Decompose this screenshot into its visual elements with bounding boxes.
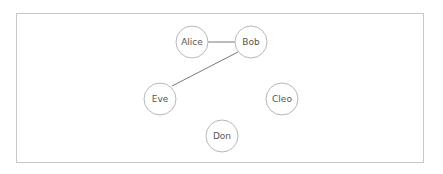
edge-bob-eve[interactable] — [172, 52, 238, 86]
node-alice-label: Alice — [181, 37, 203, 47]
node-eve[interactable]: Eve — [144, 83, 176, 115]
node-bob-label: Bob — [242, 37, 260, 47]
graph: Alice Bob Eve Cleo Don — [0, 0, 443, 174]
node-cleo-label: Cleo — [272, 94, 292, 104]
node-cleo[interactable]: Cleo — [266, 83, 298, 115]
node-bob[interactable]: Bob — [235, 26, 267, 58]
node-don[interactable]: Don — [206, 120, 238, 152]
node-alice[interactable]: Alice — [176, 26, 208, 58]
node-eve-label: Eve — [152, 94, 169, 104]
node-don-label: Don — [213, 131, 231, 141]
